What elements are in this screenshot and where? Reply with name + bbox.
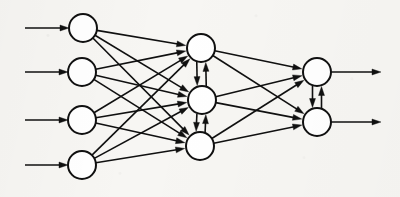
edge-i2-h2-head: [177, 92, 186, 98]
neuron-node-i3[interactable]: [68, 106, 96, 134]
lateral-o1-o2-lateral: [310, 86, 325, 108]
out-arrow-1-head: [372, 69, 381, 75]
external-output-arrows-group: [331, 69, 381, 125]
lateral-h1-h2-lateral-fwd-head: [194, 77, 200, 86]
in-arrow-3: [25, 117, 68, 123]
in-arrow-1-head: [60, 25, 69, 31]
neuron-node-h2[interactable]: [188, 86, 216, 114]
edge-i2-h1: [96, 50, 186, 69]
neuron-node-i4[interactable]: [68, 151, 96, 179]
edge-i2-h1-shaft: [96, 52, 180, 69]
edge-h3-o2: [214, 124, 302, 143]
lateral-h2-h3-lateral-fwd: [194, 114, 200, 132]
edge-i4-h3-head: [175, 147, 184, 153]
edge-i3-h3-head: [175, 138, 184, 144]
out-arrow-1: [331, 69, 381, 75]
lateral-h2-h3-lateral-rev-head: [202, 115, 208, 124]
neuron-node-h3[interactable]: [186, 132, 214, 160]
hidden-layer: [186, 34, 216, 160]
edge-i3-h2-head: [177, 101, 186, 107]
edge-i1-h2-head: [179, 85, 188, 92]
edge-i4-h2-head: [179, 107, 188, 114]
neural-network-figure: [0, 0, 400, 197]
edge-h1-o2-shaft: [213, 56, 299, 111]
neuron-nodes-group: [68, 14, 331, 179]
edge-i1-h1-shaft: [97, 30, 180, 44]
edge-h2-o2-head: [292, 114, 301, 120]
lateral-h2-h3-lateral-rev: [202, 115, 208, 133]
lateral-h1-h2-lateral-rev: [203, 62, 209, 86]
lateral-o1-o2-lateral-rev: [319, 87, 325, 109]
edge-h2-o1: [216, 75, 302, 97]
edge-h2-o2: [216, 103, 302, 121]
edge-i2-h2: [96, 75, 187, 97]
edge-h3-o1: [212, 80, 304, 138]
lateral-o1-o2-lateral-fwd-head: [310, 99, 316, 108]
in-arrow-2-head: [59, 69, 68, 75]
lateral-o1-o2-lateral-rev-head: [319, 87, 325, 96]
network-diagram-canvas: [0, 0, 400, 197]
in-arrow-1: [25, 25, 69, 31]
edge-h1-o1-head: [292, 64, 301, 70]
edge-i4-h3: [96, 147, 185, 163]
lateral-h1-h2-lateral: [194, 62, 209, 86]
in-arrow-2: [25, 69, 68, 75]
edge-h1-o1: [215, 51, 302, 70]
neuron-node-h1[interactable]: [187, 34, 215, 62]
edge-h3-o2-head: [292, 124, 301, 130]
in-arrow-3-head: [59, 117, 68, 123]
edge-i2-h2-shaft: [96, 75, 181, 95]
out-arrow-2: [331, 119, 381, 125]
neuron-node-i1[interactable]: [69, 14, 97, 42]
neuron-node-o2[interactable]: [303, 108, 331, 136]
edge-i2-h1-head: [176, 50, 185, 56]
neuron-node-o1[interactable]: [303, 58, 331, 86]
lateral-h2-h3-lateral: [194, 114, 209, 132]
edge-h3-o1-head: [295, 80, 304, 87]
lateral-o1-o2-lateral-fwd: [310, 86, 316, 108]
external-input-arrows-group: [25, 25, 69, 168]
output-layer: [303, 58, 331, 136]
edge-h3-o1-shaft: [212, 84, 299, 139]
lateral-h1-h2-lateral-fwd: [194, 62, 200, 86]
edge-h2-o1-head: [292, 75, 301, 81]
neuron-node-i2[interactable]: [68, 58, 96, 86]
edge-h1-o2-head: [295, 106, 304, 113]
in-arrow-4-head: [59, 162, 68, 168]
out-arrow-2-head: [372, 119, 381, 125]
edge-i1-h1-head: [176, 41, 185, 47]
lateral-h2-h3-lateral-fwd-head: [194, 122, 200, 131]
lateral-h1-h2-lateral-rev-head: [203, 62, 209, 71]
in-arrow-4: [25, 162, 68, 168]
